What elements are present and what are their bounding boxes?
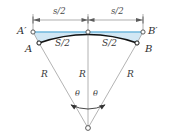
dimension-line [33,17,143,24]
label-theta-right: θ [93,90,98,98]
label-half-span-left: s/2 [53,7,66,16]
label-half-arc-left: S/2 [55,39,70,48]
figure-canvas [0,0,176,137]
label-radius-left: R [41,70,48,79]
label-point-b: B [145,44,152,54]
label-point-a-prime: A′ [17,26,27,36]
label-half-span-right: s/2 [111,7,124,16]
label-radius-right: R [127,70,134,79]
marker-a [37,41,41,45]
arc-geometry-figure: A′ B′ A B s/2 s/2 S/2 S/2 R R R θ θ [0,0,176,137]
marker-b [135,41,139,45]
label-theta-left: θ [75,90,80,98]
marker-a-prime [31,30,35,34]
label-half-arc-right: S/2 [102,39,117,48]
label-point-b-prime: B′ [148,26,158,36]
marker-apex [86,30,90,34]
radius-lines [39,32,137,128]
marker-center-o [86,126,91,131]
marker-b-prime [141,30,145,34]
label-point-a: A [25,44,32,54]
label-radius-center: R [79,70,86,79]
